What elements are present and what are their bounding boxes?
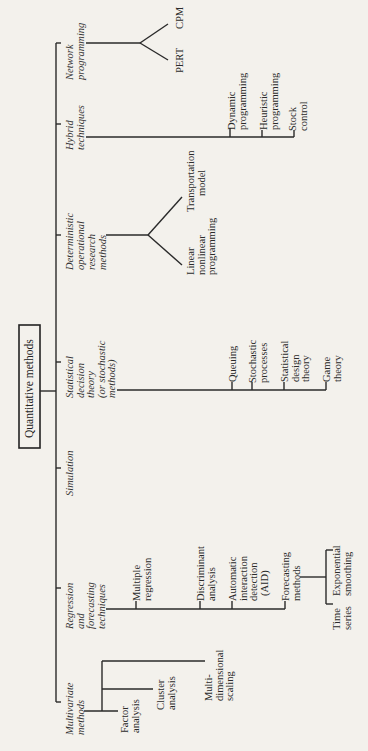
- category-hybrid-techniques: Hybrid techniques Dynamic programming He…: [64, 72, 309, 151]
- leaf-cluster-analysis: Cluster analysis: [155, 676, 177, 710]
- category-label: Deterministic operational research metho…: [64, 210, 108, 271]
- category-deterministic-or-methods: Deterministic operational research metho…: [64, 148, 217, 275]
- quantitative-methods-diagram: Quantitative methods Network programming…: [0, 0, 368, 751]
- category-label: Network programming: [64, 23, 86, 81]
- leaf-stochastic-processes: Stochastic processes: [247, 337, 269, 383]
- leaf-stock-control: Stock control: [287, 101, 309, 131]
- leaf-time-series: Time series: [331, 606, 353, 630]
- leaf-linear-nonlinear-programming: Linear nonlinear programming: [185, 217, 217, 275]
- category-network-programming: Network programming CPM PERT: [64, 6, 185, 81]
- diagram-canvas: Quantitative methods Network programming…: [0, 0, 368, 751]
- leaf-transportation-model: Transportation model: [185, 148, 207, 212]
- category-multivariate-methods: Multivariate methods Factor analysis Clu…: [64, 647, 235, 736]
- leaf-statistical-design-theory: Statistical design theory: [279, 338, 311, 382]
- node-forecasting-methods: Forecasting methods: [280, 549, 302, 601]
- leaf-factor-analysis: Factor analysis: [119, 699, 141, 733]
- leaf-multidimensional-scaling: Multi- dimensional scaling: [203, 647, 235, 701]
- leaf-discriminant-analysis: Discriminant analysis: [195, 544, 217, 601]
- leaf-heuristic-programming: Heuristic programming: [258, 72, 280, 130]
- leaf-game-theory: Game theory: [321, 354, 343, 382]
- category-label: Statistical decision theory (or stochast…: [64, 338, 118, 398]
- category-simulation: Simulation: [64, 450, 75, 496]
- category-label: Hybrid techniques: [64, 105, 86, 151]
- category-label: Multivariate methods: [64, 680, 86, 736]
- leaf-queuing: Queuing: [227, 345, 238, 382]
- title-text: Quantitative methods: [23, 339, 35, 438]
- leaf-aid: Automatic interaction detection (AID): [227, 553, 271, 601]
- leaf-pert: PERT: [174, 47, 185, 73]
- leaf-cpm: CPM: [174, 6, 185, 29]
- category-label: Regression and forecasting techniques: [64, 580, 107, 630]
- leaf-multiple-regression: Multiple regression: [131, 557, 153, 601]
- leaf-exponential-smoothing: Exponential smoothing: [331, 543, 353, 596]
- category-regression-forecasting: Regression and forecasting techniques Mu…: [64, 543, 353, 630]
- category-statistical-decision-theory: Statistical decision theory (or stochast…: [64, 337, 343, 398]
- leaf-dynamic-programming: Dynamic programming: [226, 72, 248, 130]
- category-label: Simulation: [64, 450, 75, 496]
- title-node: Quantitative methods: [19, 325, 40, 448]
